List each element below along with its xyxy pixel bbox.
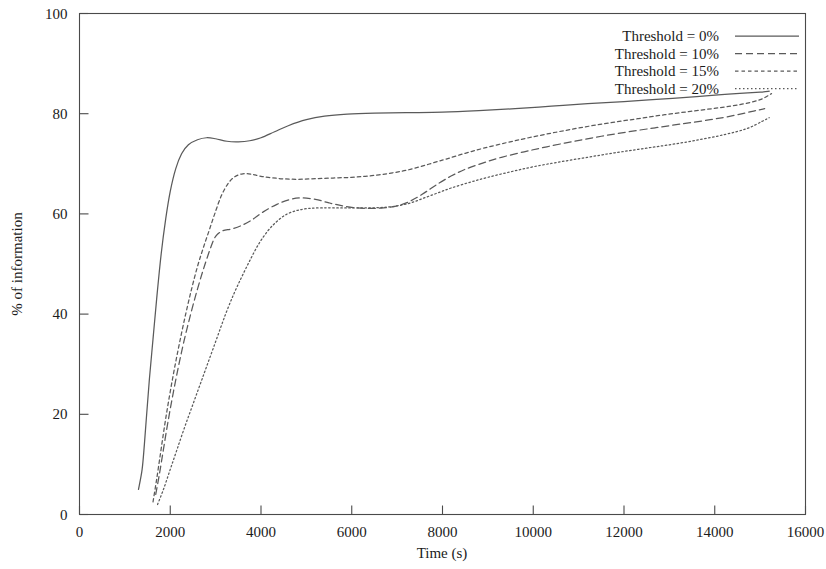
y-tick-label: 40: [53, 306, 68, 322]
x-tick-label: 8000: [428, 524, 458, 540]
chart-legend: Threshold = 0%Threshold = 10%Threshold =…: [615, 28, 799, 97]
series-line-0: [138, 91, 769, 489]
y-tick-label: 80: [53, 106, 68, 122]
y-tick-label: 60: [53, 206, 68, 222]
series-line-2: [153, 94, 771, 502]
x-tick-label: 4000: [246, 524, 276, 540]
series-line-1: [156, 109, 765, 495]
y-tick-label: 100: [45, 6, 68, 22]
x-tick-label: 10000: [515, 524, 553, 540]
series-group: [138, 91, 771, 504]
legend-label-2: Threshold = 15%: [615, 63, 719, 79]
x-tick-label: 16000: [787, 524, 825, 540]
x-axis-title: Time (s): [417, 545, 468, 562]
y-axis-ticks: 020406080100: [45, 6, 89, 523]
x-axis-ticks: 0200040006000800010000120001400016000: [76, 506, 825, 540]
line-chart: 020406080100 020004000600080001000012000…: [0, 0, 826, 569]
legend-label-1: Threshold = 10%: [615, 46, 719, 62]
x-tick-label: 2000: [155, 524, 185, 540]
x-tick-label: 0: [76, 524, 84, 540]
y-axis-title: % of information: [9, 212, 25, 316]
chart-page: 020406080100 020004000600080001000012000…: [0, 0, 826, 569]
legend-label-0: Threshold = 0%: [622, 28, 719, 44]
x-tick-label: 12000: [605, 524, 643, 540]
series-line-3: [158, 118, 770, 505]
legend-label-3: Threshold = 20%: [615, 81, 719, 97]
y-tick-label: 0: [60, 507, 68, 523]
x-tick-label: 6000: [337, 524, 367, 540]
y-tick-label: 20: [53, 406, 68, 422]
x-tick-label: 14000: [696, 524, 734, 540]
